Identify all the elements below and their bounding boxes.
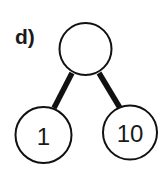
left-node-value: 1: [37, 123, 50, 150]
tree-node-right: 10: [103, 106, 157, 160]
root-node-circle: [60, 23, 112, 75]
tree-edge-root-left: [54, 73, 72, 108]
right-node-value: 10: [117, 120, 144, 147]
tree-node-root: [60, 23, 112, 75]
tree-edge-root-right: [99, 73, 120, 108]
panel-label: d): [15, 25, 35, 48]
tree-node-left: 1: [16, 107, 72, 163]
binary-tree-diagram: d) 1 10: [0, 0, 165, 172]
